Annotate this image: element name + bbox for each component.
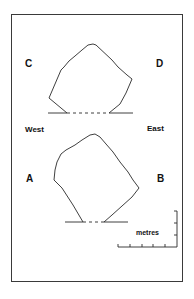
label-west: West xyxy=(25,126,44,134)
scale-unit-label: metres xyxy=(136,229,159,236)
lower-stone-profile-ab xyxy=(54,134,139,222)
label-east: East xyxy=(147,125,164,133)
label-c: C xyxy=(25,59,32,69)
upper-stone-profile-cd xyxy=(48,44,133,113)
label-a: A xyxy=(26,174,33,184)
label-d: D xyxy=(156,59,163,69)
stone-profiles-drawing xyxy=(0,0,194,299)
label-b: B xyxy=(157,174,164,184)
